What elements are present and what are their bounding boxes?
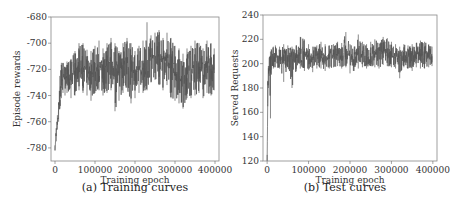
x-tick-label: 400000 — [416, 165, 451, 175]
chart-panel-test: 1201401601802002202400100000200000300000… — [228, 0, 457, 215]
x-tick-label: 200000 — [333, 165, 368, 175]
y-tick-label: 160 — [242, 107, 259, 117]
data-series — [55, 22, 214, 150]
y-tick-label: -700 — [27, 38, 47, 48]
data-series — [267, 32, 432, 161]
caption-test-curves: (b) Test curves — [270, 181, 420, 194]
y-tick-label: -780 — [27, 143, 47, 153]
y-tick-label: 180 — [242, 83, 259, 93]
y-tick-label: 140 — [242, 132, 259, 142]
x-tick-label: 300000 — [158, 165, 193, 175]
chart-panel-training: -780-760-740-720-700-6800100000200000300… — [0, 0, 228, 215]
x-tick-label: 0 — [52, 165, 58, 175]
y-tick-label: 120 — [242, 156, 259, 166]
x-tick-label: 100000 — [78, 165, 113, 175]
y-tick-label: -760 — [27, 117, 47, 127]
x-tick-label: 100000 — [291, 165, 326, 175]
y-tick-label: 240 — [242, 10, 259, 20]
y-axis-label: Served Requests — [230, 49, 240, 126]
x-tick-label: 300000 — [374, 165, 409, 175]
axes-frame — [263, 15, 437, 161]
x-tick-label: 0 — [264, 165, 270, 175]
y-tick-label: -740 — [27, 91, 47, 101]
y-tick-label: 220 — [242, 34, 259, 44]
y-tick-label: -720 — [27, 64, 47, 74]
caption-training-curves: (a) Training curves — [60, 181, 210, 194]
y-axis-label: Episode rewards — [12, 50, 22, 127]
y-tick-label: 200 — [242, 59, 259, 69]
x-tick-label: 200000 — [118, 165, 153, 175]
y-tick-label: -680 — [27, 12, 47, 22]
